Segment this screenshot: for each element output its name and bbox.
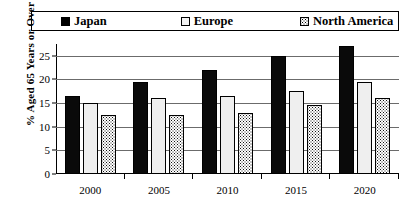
bar-north-america-2020 [375, 98, 390, 174]
legend-item-japan: Japan [61, 14, 107, 29]
x-tick-label-2000: 2000 [79, 184, 101, 196]
x-tick-label-2005: 2005 [148, 184, 170, 196]
bar-japan-2000 [65, 96, 80, 174]
legend-swatch-europe [181, 17, 190, 26]
x-tick-mark [124, 174, 125, 179]
x-tick-label-2015: 2015 [285, 184, 307, 196]
plot-area: 0510152025 20002005201020152020 [56, 44, 399, 174]
legend-item-europe: Europe [181, 14, 233, 29]
x-tick-mark [398, 174, 399, 179]
legend-swatch-japan [61, 17, 70, 26]
bar-north-america-2015 [307, 105, 322, 174]
x-tick-mark [192, 174, 193, 179]
y-tick-label: 0 [45, 168, 51, 180]
y-tick-label: 10 [39, 121, 50, 133]
bar-europe-2005 [151, 98, 166, 174]
y-tick-label: 20 [39, 73, 50, 85]
bar-japan-2010 [202, 70, 217, 174]
bar-europe-2000 [83, 103, 98, 174]
y-tick-label: 5 [45, 144, 51, 156]
bar-group-2005: 2005 [125, 44, 194, 174]
bar-japan-2015 [271, 56, 286, 174]
y-tick-label: 15 [39, 97, 50, 109]
bar-europe-2010 [220, 96, 235, 174]
x-tick-label-2020: 2020 [354, 184, 376, 196]
legend-label-japan: Japan [74, 14, 107, 29]
bar-north-america-2010 [238, 113, 253, 174]
bar-group-2010: 2010 [193, 44, 262, 174]
bar-group-2000: 2000 [56, 44, 125, 174]
bar-group-2015: 2015 [262, 44, 331, 174]
x-tick-mark [261, 174, 262, 179]
legend-label-north-america: North America [313, 14, 393, 29]
bar-japan-2005 [133, 82, 148, 174]
x-tick-label-2010: 2010 [216, 184, 238, 196]
bar-europe-2020 [357, 82, 372, 174]
bar-north-america-2005 [169, 115, 184, 174]
legend-swatch-north-america [300, 17, 309, 26]
legend-label-europe: Europe [194, 14, 233, 29]
bar-chart: Japan Europe North America % Aged 65 Yea… [0, 0, 418, 211]
bar-japan-2020 [339, 46, 354, 174]
bar-north-america-2000 [101, 115, 116, 174]
bar-groups: 20002005201020152020 [56, 44, 399, 174]
chart-legend: Japan Europe North America [31, 11, 399, 31]
bar-group-2020: 2020 [330, 44, 399, 174]
x-tick-mark [329, 174, 330, 179]
y-axis-title: % Aged 65 Years or Over [24, 0, 36, 139]
bar-europe-2015 [289, 91, 304, 174]
legend-item-north-america: North America [300, 14, 393, 29]
y-tick-label: 25 [39, 50, 50, 62]
